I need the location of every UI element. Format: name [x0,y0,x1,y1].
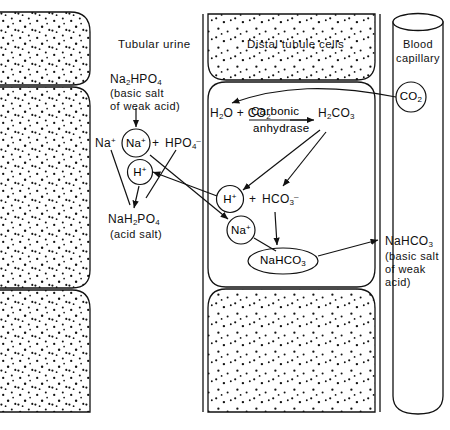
diagram-canvas [0,0,450,430]
cell-bicarbonate: HCO3– [262,192,298,207]
urine-free-sodium: Na+ [95,136,116,150]
blood-nahco3-formula: NaHCO3 [385,234,433,249]
distal-tubule-heading: Distal tubule cells [247,38,344,52]
tubular-urine-heading: Tubular urine [118,38,191,52]
left-epithelial-column [0,12,90,412]
na2hpo4-note-line-2: of weak acid) [110,100,180,114]
nah2po4-note: (acid salt) [110,228,162,242]
urine-plus-sign: + [152,136,159,150]
urine-circled-sodium: Na+ [122,136,150,149]
cell-circled-sodium: Na+ [227,223,255,236]
urine-circled-proton: H+ [127,165,153,178]
cell-plus-sign: + [249,192,256,206]
arrow-h-plus-to-nah2po4 [134,186,139,208]
nah2po4-formula: NaH2PO4 [108,212,160,227]
cell-nahco3: NaHCO3 [253,254,313,268]
blood-capillary-heading-line-2: capillary [385,52,450,66]
reaction-product-h2co3: H2CO3 [318,106,354,121]
enzyme-name-bottom: anhydrase [253,122,309,134]
blood-circled-co2: CO2 [396,90,426,104]
blood-nahco3-note-line-1: (basic salt [385,250,439,264]
blood-nahco3-note-line-3: acid) [385,276,411,290]
cell-circled-proton: H+ [217,192,243,205]
blood-capillary-vessel [393,14,443,415]
na2hpo4-formula: Na2HPO4 [110,72,162,87]
renal-acidification-diagram: Tubular urine Na2HPO4 (basic salt of wea… [0,0,450,430]
urine-phosphate: HPO4– [165,136,201,151]
blood-capillary-heading-line-1: Blood [385,38,450,52]
blood-nahco3-note-line-2: of weak [385,263,426,277]
na2hpo4-note-line-1: (basic salt [110,87,164,101]
enzyme-name-top: Carbonic [251,105,299,117]
